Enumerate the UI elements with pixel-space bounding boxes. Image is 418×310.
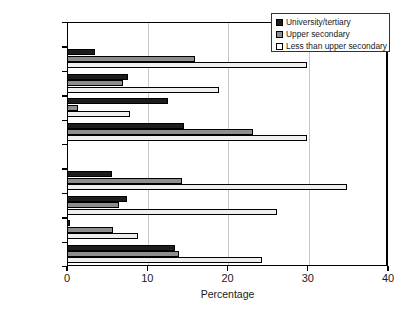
y-axis-tick xyxy=(62,168,67,169)
y-axis-tick xyxy=(62,46,67,47)
y-axis-tick xyxy=(62,144,67,145)
x-axis-title: Percentage xyxy=(67,288,388,300)
legend-item: Upper secondary xyxy=(276,29,389,40)
y-axis-tick xyxy=(62,193,67,194)
bar-1 xyxy=(67,178,182,184)
x-axis-tick xyxy=(307,266,308,271)
x-axis-tick-label: 20 xyxy=(208,272,248,284)
y-axis-tick xyxy=(62,95,67,96)
gridline-30 xyxy=(309,23,310,265)
bar-2 xyxy=(67,209,277,215)
bar-0 xyxy=(67,74,128,80)
bar-2 xyxy=(67,233,138,239)
x-axis-tick xyxy=(227,266,228,271)
black-square-icon xyxy=(276,19,283,26)
bar-1 xyxy=(67,56,195,62)
legend-item-label: Less than upper secondary xyxy=(286,42,387,51)
gridline-20 xyxy=(228,23,229,265)
x-axis-tick-label: 0 xyxy=(47,272,87,284)
x-axis-tick-label: 10 xyxy=(127,272,167,284)
bar-2 xyxy=(67,87,219,93)
bar-0 xyxy=(67,196,127,202)
gray-square-icon xyxy=(276,31,283,38)
bar-0 xyxy=(67,49,95,55)
legend-item: University/tertiary xyxy=(276,17,389,28)
bar-2 xyxy=(67,135,307,141)
legend-item: Less than upper secondary xyxy=(276,41,389,52)
bar-0 xyxy=(67,98,168,104)
bar-chart: MalesUSAIrelandGermanyAustraliaFemalesUS… xyxy=(0,0,418,310)
legend-item-label: Upper secondary xyxy=(286,30,350,39)
x-axis-tick-label: 30 xyxy=(288,272,328,284)
bar-0 xyxy=(67,123,184,129)
bar-2 xyxy=(67,184,347,190)
bar-0 xyxy=(67,220,70,226)
bar-1 xyxy=(67,227,113,233)
y-axis-tick xyxy=(62,71,67,72)
bar-1 xyxy=(67,251,179,257)
bar-0 xyxy=(67,245,175,251)
x-axis-tick-label: 40 xyxy=(368,272,408,284)
bar-1 xyxy=(67,129,253,135)
x-axis-tick xyxy=(66,266,67,271)
bar-2 xyxy=(67,257,262,263)
bar-1 xyxy=(67,105,78,111)
axis-right xyxy=(386,23,388,265)
chart-legend: University/tertiary Upper secondary Less… xyxy=(271,13,390,52)
white-square-icon xyxy=(276,43,283,50)
bar-0 xyxy=(67,171,112,177)
y-axis-tick xyxy=(62,120,67,121)
x-axis-tick xyxy=(147,266,148,271)
y-axis-tick xyxy=(62,217,67,218)
bar-2 xyxy=(67,111,130,117)
bar-1 xyxy=(67,80,123,86)
bar-2 xyxy=(67,62,307,68)
x-axis-tick xyxy=(387,266,388,271)
legend-item-label: University/tertiary xyxy=(286,18,351,27)
y-axis-tick xyxy=(62,22,67,23)
y-axis-tick xyxy=(62,242,67,243)
bar-1 xyxy=(67,202,119,208)
